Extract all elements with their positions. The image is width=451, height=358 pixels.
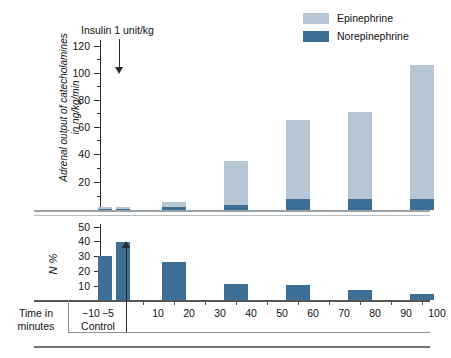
ytick2-label-10: 10: [30, 280, 90, 292]
xtick-80: [360, 300, 361, 305]
xtick-10: [143, 300, 144, 305]
panel-divider: [34, 215, 430, 216]
xtick-label-90: 90: [391, 307, 421, 319]
bottom-panel-baseline: [34, 300, 430, 302]
ytick-label-80: 80: [30, 94, 90, 106]
x-axis-title-line2: minutes: [18, 320, 55, 332]
bar-n-minus5: [116, 242, 130, 300]
bottom-panel-bars: [100, 224, 430, 300]
x-axis-title: Time in minutes: [6, 307, 66, 332]
ytick-label-100: 100: [30, 67, 90, 79]
top-panel-bars: [100, 40, 430, 210]
ytick2-label-20: 20: [30, 265, 90, 277]
ytick-label-60: 60: [30, 121, 90, 133]
ytick2-label-30: 30: [30, 250, 90, 262]
legend-swatch-epinephrine: [303, 13, 329, 24]
top-panel-baseline: [34, 210, 430, 212]
bar-n-80min: [348, 290, 372, 300]
ytick-label-20: 20: [30, 176, 90, 188]
bar-n-40min: [224, 284, 248, 300]
time-zero-arrow-shaft: [126, 247, 127, 333]
bar-20min: [162, 202, 186, 210]
legend-label-epinephrine: Epinephrine: [337, 13, 393, 24]
xtick-label-30: 30: [205, 307, 235, 319]
xtick-60: [298, 300, 299, 305]
control-label: −10 −5 Control: [72, 307, 124, 332]
bar-n-minus10: [98, 256, 112, 300]
xtick-20: [174, 300, 175, 305]
xtick-label-60: 60: [298, 307, 328, 319]
xtick-label-40: 40: [236, 307, 266, 319]
xtick-70: [329, 300, 330, 305]
ytick-label-40: 40: [30, 148, 90, 160]
xtick-label-80: 80: [360, 307, 390, 319]
footer-rule-bottom: [34, 346, 430, 348]
bar-100min: [410, 65, 434, 210]
control-label-values: −10 −5: [82, 307, 114, 319]
bar-segment-epinephrine: [224, 161, 248, 205]
xtick-label-100: 100: [422, 307, 451, 319]
bar-segment-epinephrine: [410, 65, 434, 199]
xtick-label-20: 20: [174, 307, 204, 319]
ytick-label-120: 120: [30, 40, 90, 52]
bar-segment-epinephrine: [348, 112, 372, 199]
top-y-axis-title: Adrenal output of catecholamines in ng/k…: [58, 33, 81, 183]
xtick-label-70: 70: [329, 307, 359, 319]
footer-rule-top: [68, 332, 430, 333]
xtick-100: [422, 300, 423, 305]
bar-segment-epinephrine: [286, 120, 310, 199]
xtick-40: [236, 300, 237, 305]
control-label-text: Control: [81, 320, 115, 332]
bar-n-20min: [162, 262, 186, 300]
bar-40min: [224, 161, 248, 210]
xtick-label-10: 10: [143, 307, 173, 319]
bar-segment-norepinephrine: [410, 199, 434, 210]
bar-n-60min: [286, 285, 310, 300]
bar-segment-norepinephrine: [348, 199, 372, 210]
control-box-left-divider: [68, 300, 69, 332]
ytick2-label-40: 40: [30, 235, 90, 247]
time-zero-arrow-head-icon: [122, 241, 130, 248]
xtick-50: [267, 300, 268, 305]
insulin-annotation: Insulin 1 unit/kg: [81, 24, 154, 36]
ytick2-label-50: 50: [30, 221, 90, 233]
x-axis-title-line1: Time in: [19, 307, 53, 319]
xtick-30: [205, 300, 206, 305]
xtick-label-50: 50: [267, 307, 297, 319]
bar-80min: [348, 112, 372, 210]
xtick-90: [391, 300, 392, 305]
bar-60min: [286, 120, 310, 210]
legend-item-epinephrine: Epinephrine: [303, 10, 409, 26]
bar-segment-norepinephrine: [286, 199, 310, 210]
